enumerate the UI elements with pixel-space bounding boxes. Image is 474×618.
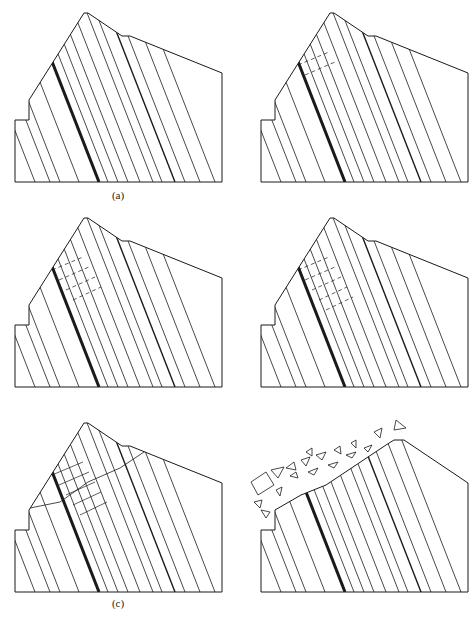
debris-block (328, 462, 338, 468)
slope-diagram (246, 410, 474, 610)
debris-block (364, 445, 372, 452)
debris-block (271, 467, 284, 478)
slope-diagram (0, 205, 240, 405)
debris-block (346, 452, 356, 458)
debris-block (276, 487, 282, 496)
slope-diagram (0, 410, 240, 610)
debris-block (251, 472, 274, 495)
debris-block (290, 472, 298, 478)
panel-label: (a) (98, 189, 138, 201)
debris-block (254, 500, 262, 508)
debris-block (394, 420, 406, 430)
slope-diagram (246, 0, 474, 200)
debris-block (316, 452, 326, 460)
debris-block (308, 468, 318, 475)
debris-block (334, 446, 341, 454)
debris-block (261, 510, 270, 518)
debris-block (306, 448, 312, 456)
slope-diagram (0, 0, 240, 200)
debris-block (351, 440, 356, 448)
debris-block (301, 457, 310, 466)
debris-block (286, 462, 296, 470)
debris-block (374, 428, 382, 438)
slope-diagram (246, 205, 474, 405)
